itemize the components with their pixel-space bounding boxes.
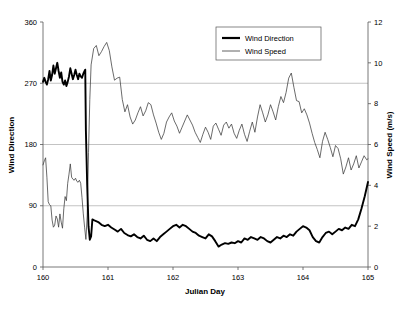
left-tick-label-90: 90 — [29, 201, 37, 210]
right-tick-label-4: 4 — [374, 181, 378, 190]
chart-legend[interactable]: Wind Direction Wind Speed — [216, 27, 321, 60]
bottom-tick-label-162: 162 — [167, 273, 180, 282]
right-tick-label-6: 6 — [374, 140, 378, 149]
right-tick-label-8: 8 — [374, 99, 378, 108]
left-tick-label-0: 0 — [33, 263, 37, 272]
right-axis-title: Wind Speed (m/s) — [385, 111, 394, 178]
left-tick-label-180: 180 — [24, 140, 37, 149]
bottom-tick-label-163: 163 — [232, 273, 245, 282]
bottom-axis-title: Julian Day — [185, 287, 226, 296]
bottom-tick-label-161: 161 — [102, 273, 115, 282]
right-tick-label-0: 0 — [374, 263, 378, 272]
chart-svg: 090180270360 024681012 16016116216316416… — [0, 0, 405, 312]
left-tick-label-360: 360 — [24, 18, 37, 27]
bottom-tick-label-165: 165 — [362, 273, 375, 282]
right-tick-label-2: 2 — [374, 222, 378, 231]
bottom-tick-label-164: 164 — [297, 273, 310, 282]
figure-background — [0, 0, 405, 312]
right-tick-label-12: 12 — [374, 18, 382, 27]
chart-figure: 090180270360 024681012 16016116216316416… — [0, 0, 405, 312]
legend-label-wind-direction: Wind Direction — [245, 34, 294, 43]
left-axis-title: Wind Direction — [7, 117, 16, 173]
left-tick-label-270: 270 — [24, 79, 37, 88]
legend-label-wind-speed: Wind Speed — [245, 47, 286, 56]
right-tick-label-10: 10 — [374, 59, 382, 68]
bottom-tick-label-160: 160 — [37, 273, 50, 282]
